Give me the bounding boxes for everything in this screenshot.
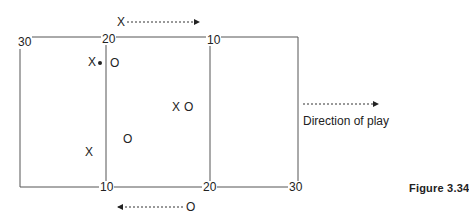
bottom-arrow-player-o: O: [186, 201, 195, 213]
player-x: X: [85, 146, 93, 158]
yard-label-top-10: 10: [206, 34, 221, 46]
yard-label-bottom-20: 20: [202, 181, 217, 193]
player-o: O: [123, 133, 132, 145]
yard-label-bottom-30: 30: [288, 181, 303, 193]
yard-label-top-20: 20: [101, 33, 116, 45]
yard-label-bottom-10: 10: [99, 181, 114, 193]
player-x: X: [172, 101, 180, 113]
player-x-with-ball: X: [88, 56, 102, 68]
figure-caption: Figure 3.34: [409, 182, 469, 194]
player-o: O: [184, 101, 193, 113]
ball-icon: [98, 61, 102, 65]
direction-of-play-label: Direction of play: [303, 114, 389, 128]
yard-label-top-30: 30: [17, 36, 32, 48]
player-o: O: [110, 57, 119, 69]
top-arrow-player-x: X: [117, 16, 125, 28]
